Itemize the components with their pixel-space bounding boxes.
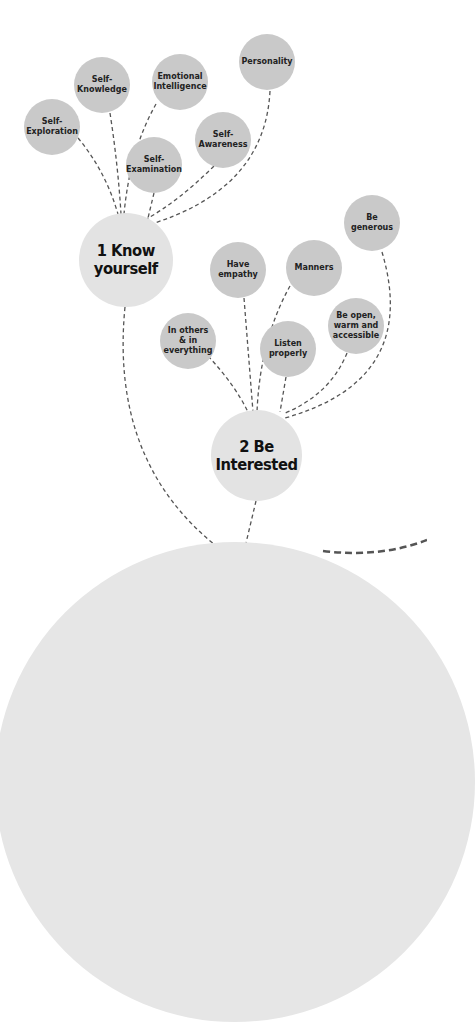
hub-be-interested: 2 Be Interested: [211, 410, 302, 501]
node-self-awareness: Self- Awareness: [195, 112, 251, 168]
node-label: Manners: [292, 263, 337, 273]
node-be-open: Be open, warm and accessible: [328, 298, 384, 354]
node-label: Emotional Intelligence: [150, 72, 209, 92]
node-self-knowledge: Self- Knowledge: [74, 57, 130, 113]
hub-label: 2 Be Interested: [216, 438, 298, 474]
node-be-generous: Be generous: [344, 195, 400, 251]
node-self-exploration: Self- Exploration: [24, 99, 80, 155]
node-label: Self- Examination: [123, 155, 185, 175]
node-label: In others & in everything: [161, 326, 216, 356]
node-label: Listen properly: [266, 339, 310, 359]
node-listen-properly: Listen properly: [260, 321, 316, 377]
node-self-examination: Self- Examination: [126, 137, 182, 193]
node-emotional-intelligence: Emotional Intelligence: [152, 54, 208, 110]
base-circle: [0, 542, 475, 1022]
hub-know-yourself: 1 Know yourself: [79, 213, 173, 307]
hub-label: 1 Know yourself: [94, 242, 158, 278]
node-label: Self- Awareness: [196, 130, 251, 150]
node-label: Self- Exploration: [23, 117, 81, 137]
node-in-others: In others & in everything: [160, 313, 216, 369]
node-label: Have empathy: [215, 260, 261, 280]
node-manners: Manners: [286, 240, 342, 296]
node-have-empathy: Have empathy: [210, 242, 266, 298]
node-personality: Personality: [239, 34, 295, 90]
node-label: Personality: [238, 57, 295, 67]
node-label: Be generous: [348, 213, 396, 233]
node-label: Self- Knowledge: [74, 75, 130, 95]
node-label: Be open, warm and accessible: [330, 311, 382, 341]
